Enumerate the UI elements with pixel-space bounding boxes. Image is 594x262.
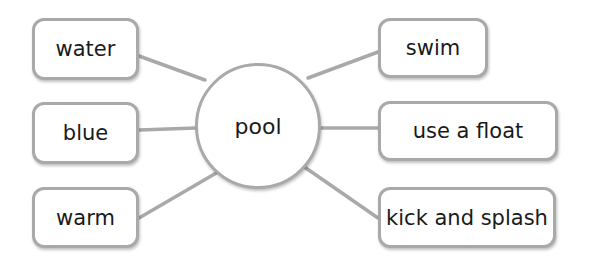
node-label: water: [56, 37, 116, 61]
node-label: kick and splash: [386, 206, 548, 230]
node-swim: swim: [378, 18, 488, 78]
node-label: swim: [406, 36, 460, 60]
connector-blue: [139, 128, 196, 130]
connector-warm: [139, 172, 218, 218]
connector-water: [139, 56, 205, 80]
node-label: warm: [56, 206, 115, 230]
node-warm: warm: [32, 187, 139, 248]
node-label: use a float: [413, 119, 524, 143]
node-label: blue: [63, 121, 108, 145]
node-kick-and-splash: kick and splash: [378, 187, 556, 248]
center-label: pool: [235, 114, 282, 139]
node-blue: blue: [32, 102, 139, 164]
node-water: water: [32, 18, 139, 80]
connector-swim: [308, 52, 378, 78]
connector-kick-and-splash: [303, 166, 378, 218]
node-use-a-float: use a float: [378, 101, 558, 161]
center-node-pool: pool: [195, 63, 321, 189]
